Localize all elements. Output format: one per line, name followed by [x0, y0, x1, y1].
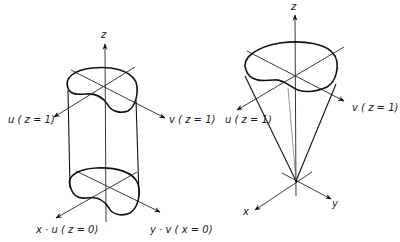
cone-x-label: x — [242, 206, 249, 217]
cone-x-axis — [255, 172, 312, 210]
cone-panel: z u ( z = 1) v ( z = 1) x y — [225, 1, 398, 217]
cylinder-left-wall — [68, 90, 70, 188]
cylinder-bottom-cap — [70, 168, 140, 215]
cylinder-v-top-label: v ( z = 1) — [169, 114, 215, 125]
cylinder-x-bottom-label: x · u ( z = 0) — [35, 224, 98, 235]
cone-top-cap — [245, 42, 337, 92]
diagram-figure: z u ( z = 1) v ( z = 1) x · u ( z = 0) y… — [0, 0, 400, 242]
cone-y-axis — [282, 173, 331, 199]
cone-v-top-label: v ( z = 1) — [352, 102, 398, 113]
cone-z-label: z — [290, 1, 297, 12]
cylinder-top-cap — [67, 68, 137, 113]
cylinder-z-axis — [105, 44, 106, 222]
cylinder-u-top-label: u ( z = 1) — [8, 114, 55, 125]
cylinder-y-bottom-axis — [76, 171, 160, 212]
cylinder-panel: z u ( z = 1) v ( z = 1) x · u ( z = 0) y… — [8, 29, 215, 235]
cone-right-edge — [296, 84, 336, 181]
cylinder-u-top-axis — [54, 67, 135, 117]
cylinder-z-label: z — [100, 29, 107, 40]
cylinder-y-bottom-label: y · v ( x = 0) — [149, 224, 213, 235]
cone-apex — [295, 180, 298, 183]
cone-y-label: y — [331, 198, 339, 209]
